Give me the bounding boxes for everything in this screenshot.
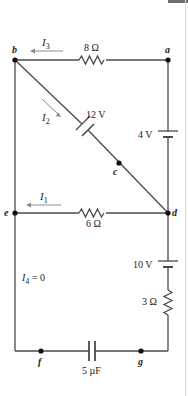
node-label-g: g <box>138 357 143 367</box>
label-5uf: 5 µF <box>82 366 101 376</box>
node-a-dot <box>165 57 170 62</box>
node-e-dot <box>12 210 17 215</box>
node-label-d: d <box>172 208 177 218</box>
resistor-6ohm-icon <box>79 209 104 217</box>
current-label-i1: I1 <box>40 191 48 205</box>
node-f-dot <box>38 348 43 353</box>
node-c-dot <box>116 160 121 165</box>
label-8ohm: 8 Ω <box>84 43 99 53</box>
label-4v: 4 V <box>138 130 153 140</box>
current-label-i3: I3 <box>42 37 50 51</box>
node-label-e: e <box>4 208 8 218</box>
label-12v: 12 V <box>86 110 106 120</box>
node-label-b: b <box>12 45 17 55</box>
node-b-dot <box>12 57 17 62</box>
wire-diagonal-lower <box>88 130 168 213</box>
current-label-i2: I2 <box>42 112 50 126</box>
label-6ohm: 6 Ω <box>86 219 101 229</box>
node-label-f: f <box>38 357 41 367</box>
node-g-dot <box>138 348 143 353</box>
node-d-dot <box>165 210 170 215</box>
current-label-i4: I4 = 0 <box>22 273 45 286</box>
resistor-8ohm-icon <box>79 56 104 64</box>
node-label-c: c <box>113 167 117 177</box>
node-label-a: a <box>165 45 170 55</box>
label-3ohm: 3 Ω <box>142 297 157 307</box>
resistor-3ohm-icon <box>164 290 172 315</box>
label-10v: 10 V <box>133 260 153 270</box>
circuit-diagram <box>0 0 188 396</box>
